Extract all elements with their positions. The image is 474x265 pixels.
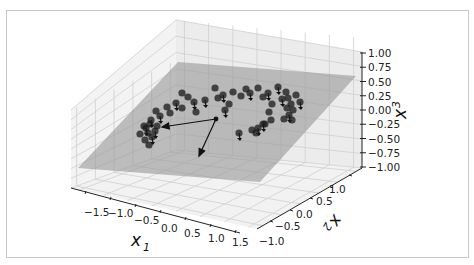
svg-text:1.0: 1.0 xyxy=(208,232,225,244)
svg-text:0.50: 0.50 xyxy=(368,76,391,88)
svg-text:−0.5: −0.5 xyxy=(134,214,160,226)
svg-text:−0.75: −0.75 xyxy=(368,147,400,159)
svg-text:0.00: 0.00 xyxy=(368,104,391,116)
svg-text:0.5: 0.5 xyxy=(184,227,201,239)
svg-text:−1.0: −1.0 xyxy=(259,235,285,247)
svg-text:0.25: 0.25 xyxy=(368,90,391,102)
x2-axis-label: x 2 xyxy=(320,210,349,237)
svg-text:1: 1 xyxy=(143,241,150,254)
svg-text:1.5: 1.5 xyxy=(232,236,249,248)
svg-text:3: 3 xyxy=(390,101,403,108)
svg-text:−1.00: −1.00 xyxy=(368,161,400,173)
x3-axis-label: x 3 xyxy=(390,101,410,120)
svg-text:−0.5: −0.5 xyxy=(275,220,301,232)
svg-text:x: x xyxy=(390,108,410,120)
svg-text:−1.0: −1.0 xyxy=(108,207,134,219)
svg-text:−0.50: −0.50 xyxy=(368,133,400,145)
svg-text:0.0: 0.0 xyxy=(296,208,313,220)
svg-text:0.0: 0.0 xyxy=(161,222,178,234)
svg-text:x: x xyxy=(130,230,142,250)
plot-3d: 1.000.750.500.250.00−0.25−0.50−0.75−1.00… xyxy=(0,0,474,265)
svg-text:1.0: 1.0 xyxy=(329,183,346,195)
svg-text:0.5: 0.5 xyxy=(316,195,333,207)
svg-text:−1.5: −1.5 xyxy=(84,206,110,218)
svg-text:1.00: 1.00 xyxy=(368,47,391,59)
svg-text:−0.25: −0.25 xyxy=(368,118,400,130)
x1-axis-label: x 1 xyxy=(130,230,150,254)
svg-text:0.75: 0.75 xyxy=(368,61,391,73)
